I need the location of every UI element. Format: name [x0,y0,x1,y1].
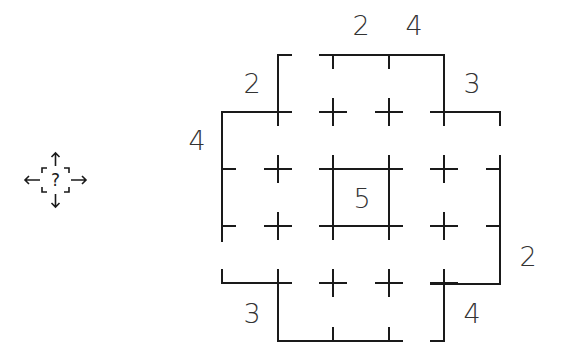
clue-top-col4: 4 [405,10,422,41]
clue-left: 4 [188,125,205,156]
center-clue: 5 [353,183,370,214]
clue-top-right: 3 [463,68,480,99]
clue-bottom-left: 3 [243,298,260,329]
clue-right: 2 [519,241,536,272]
puzzle-board: ? [0,0,567,363]
move-hint-icon[interactable]: ? [25,153,86,207]
clue-bottom-right: 4 [463,298,480,329]
clue-top-left: 2 [243,68,260,99]
hint-glyph: ? [51,170,60,190]
clue-top-col3: 2 [352,10,369,41]
